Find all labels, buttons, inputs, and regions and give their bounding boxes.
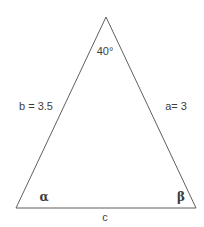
- triangle-figure-svg: 40° b = 3.5 a= 3 α β c: [0, 0, 204, 227]
- triangle-diagram: 40° b = 3.5 a= 3 α β c: [0, 0, 204, 227]
- side-b-label: b = 3.5: [19, 100, 53, 112]
- side-c-label: c: [102, 211, 108, 223]
- apex-angle-label: 40°: [97, 45, 114, 57]
- side-a-label: a= 3: [165, 100, 187, 112]
- angle-alpha-label: α: [39, 190, 48, 204]
- angle-beta-label: β: [177, 190, 185, 204]
